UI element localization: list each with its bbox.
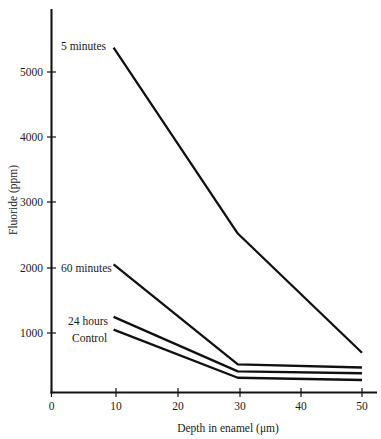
x-tick-label-50: 50 — [356, 400, 368, 412]
chart-canvas: 1000 2000 3000 4000 5000 0 10 20 30 40 5… — [0, 0, 381, 439]
series-label-24-hours: 24 hours — [68, 315, 108, 327]
series-line-5-minutes — [114, 48, 362, 353]
x-tick-label-30: 30 — [234, 400, 246, 412]
x-axis-title: Depth in enamel (μm) — [177, 422, 279, 435]
fluoride-depth-chart: 1000 2000 3000 4000 5000 0 10 20 30 40 5… — [0, 0, 381, 439]
y-tick-label-1000: 1000 — [20, 327, 43, 339]
x-tick-label-20: 20 — [172, 400, 184, 412]
x-tick-label-40: 40 — [295, 400, 307, 412]
series-label-control: Control — [72, 332, 107, 344]
series-label-5-minutes: 5 minutes — [61, 40, 107, 52]
y-tick-label-3000: 3000 — [20, 196, 43, 208]
y-tick-label-2000: 2000 — [20, 262, 43, 274]
x-tick-label-10: 10 — [110, 400, 122, 412]
x-tick-label-0: 0 — [49, 400, 55, 412]
y-axis-title: Fluoride (ppm) — [7, 165, 20, 235]
series-label-60-minutes: 60 minutes — [61, 262, 112, 274]
y-tick-label-4000: 4000 — [20, 131, 43, 143]
y-tick-label-5000: 5000 — [20, 66, 43, 78]
